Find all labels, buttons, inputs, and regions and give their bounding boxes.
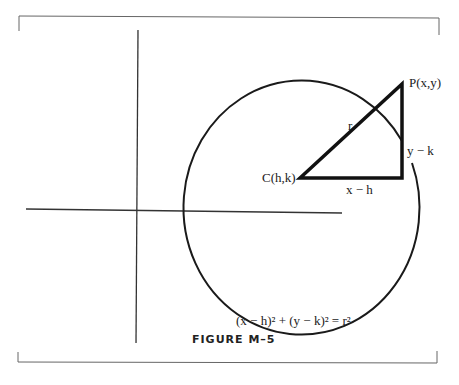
center-c-label: C(h,k): [262, 170, 296, 186]
vertical-leg-label: y − k: [407, 143, 434, 159]
figure-caption: FIGURE M–5: [192, 333, 275, 346]
frame-bottom: [18, 351, 437, 363]
y-axis: [136, 30, 138, 343]
point-p-label: P(x,y): [409, 75, 441, 91]
circle-equation: (x − h)² + (y − k)² = r²: [236, 313, 351, 329]
frame-top: [19, 16, 439, 35]
circle: [183, 81, 419, 335]
radius-label: r: [348, 118, 352, 134]
horizontal-leg-label: x − h: [346, 182, 373, 198]
circle-diagram: [0, 0, 459, 385]
